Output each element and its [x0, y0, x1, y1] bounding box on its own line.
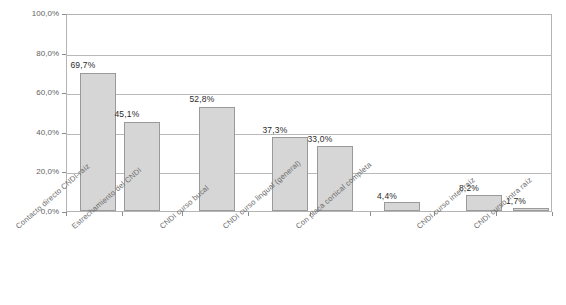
- bar-value-curso-bucal: 52,8%: [182, 94, 222, 104]
- y-axis-tick-label-20: 20,0%: [36, 167, 59, 176]
- y-axis-tick-40: 40,0%: [0, 133, 66, 134]
- y-axis-tick-60: 60,0%: [0, 93, 66, 94]
- gridline-80: [67, 55, 551, 56]
- bar-value-curso-lingual: 37,3%: [255, 125, 295, 135]
- bar-value-placa-completa: 4,4%: [367, 191, 407, 201]
- y-axis-tick-label-60: 60,0%: [36, 88, 59, 97]
- bar-cndi-curso-intra-raiz: [513, 208, 549, 211]
- bar-chart: 100,0% 80,0% 60,0% 40,0% 20,0% 0,0%: [0, 0, 566, 305]
- bar-estrechamiento-del-cndi: [124, 122, 160, 211]
- y-axis-tick-20: 20,0%: [0, 172, 66, 173]
- x-axis-tick: [370, 212, 371, 216]
- bar-value-placa-parcial: 33,0%: [300, 134, 340, 144]
- x-axis-tick: [552, 212, 553, 216]
- x-axis-tick: [66, 212, 67, 216]
- y-axis-tick-100: 100,0%: [0, 14, 66, 15]
- y-axis-tick-label-80: 80,0%: [36, 49, 59, 58]
- bar-value-estrechamiento: 45,1%: [107, 109, 147, 119]
- x-axis-tick: [122, 212, 123, 216]
- y-axis-tick-label-40: 40,0%: [36, 128, 59, 137]
- y-axis-tick-label-100: 100,0%: [32, 9, 59, 18]
- gridline-60: [67, 94, 551, 95]
- x-axis-tick: [248, 212, 249, 216]
- bar-value-contacto-directo: 69,7%: [63, 60, 103, 70]
- bar-con-placa-cortical-completa: [384, 202, 420, 211]
- y-axis-tick-80: 80,0%: [0, 54, 66, 55]
